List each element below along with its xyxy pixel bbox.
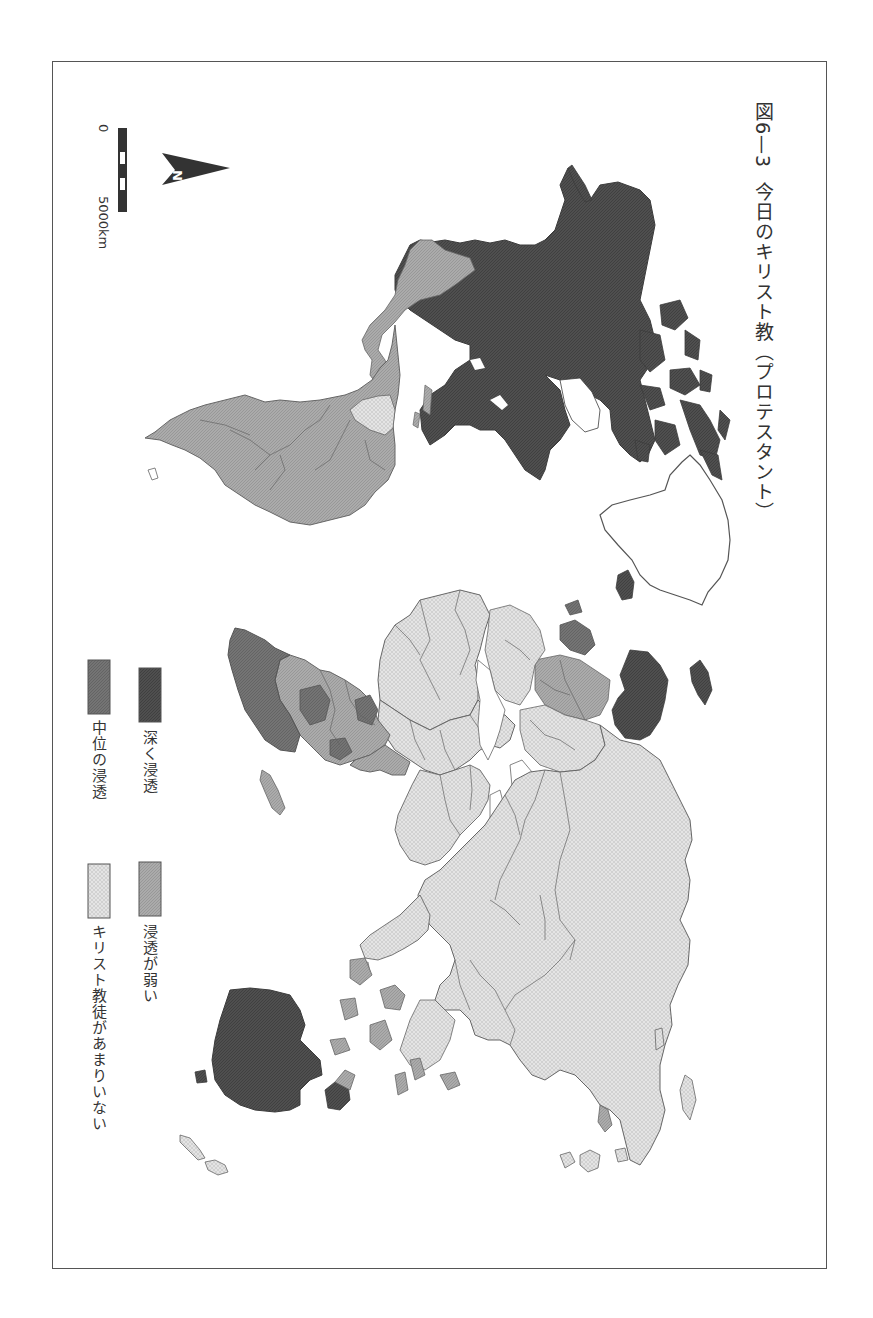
region-north-america <box>395 168 655 480</box>
region-uk <box>560 620 595 655</box>
north-arrow-icon: N <box>162 153 230 185</box>
scale-start-label: 0 <box>96 124 111 132</box>
region-madagascar <box>260 770 285 815</box>
legend-label-medium: 中位の浸透 <box>88 720 109 800</box>
world-map: N <box>0 0 873 1318</box>
region-new-zealand <box>180 1135 228 1175</box>
region-south-america <box>145 325 400 525</box>
legend-swatch-few <box>88 864 110 918</box>
legend-swatch-weak <box>139 862 161 916</box>
region-iceland <box>616 570 634 600</box>
legend-swatch-medium <box>88 660 110 714</box>
legend-label-deep: 深く浸透 <box>139 730 160 794</box>
legend-label-few: キリスト教徒があまりいない <box>88 924 109 1132</box>
falklands <box>148 468 158 480</box>
region-kamchatka <box>680 1075 696 1120</box>
legend-swatch-deep <box>139 668 161 722</box>
region-tasmania <box>195 1070 207 1083</box>
scale-end-label: 5000km <box>96 196 111 249</box>
region-india <box>360 895 430 960</box>
scale-bar <box>118 128 127 212</box>
region-scandinavia <box>612 650 668 740</box>
svg-text:N: N <box>170 170 185 181</box>
region-ireland <box>565 600 582 615</box>
region-svalbard <box>690 660 712 705</box>
region-australia <box>212 988 322 1112</box>
legend-label-weak: 浸透が弱い <box>139 924 160 1004</box>
